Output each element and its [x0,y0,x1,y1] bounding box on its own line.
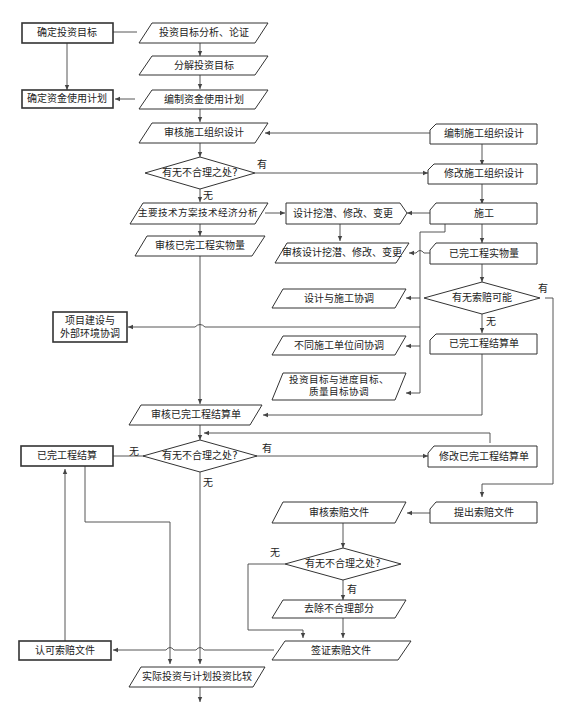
node-investment-target-analysis: 投资目标分析、论证 [139,23,268,43]
node-decompose-investment-target: 分解投资目标 [139,56,268,75]
node-review-claim-documents: 审核索赔文件 [272,502,406,523]
svg-text:审核设计挖潜、修改、变更: 审核设计挖潜、修改、变更 [282,246,402,258]
node-modify-construction-org-design: 修改施工组织设计 [428,164,537,184]
node-modify-completed-settlement-sheet: 修改已完工程结算单 [428,446,537,467]
svg-text:编制资金使用计划: 编制资金使用计划 [164,93,244,105]
svg-text:主要技术方案技术经济分析: 主要技术方案技术经济分析 [138,207,258,218]
svg-text:外部环境协调: 外部环境协调 [60,327,120,339]
node-tech-economic-analysis: 主要技术方案技术经济分析 [130,203,268,224]
svg-text:去除不合理部分: 去除不合理部分 [304,602,374,614]
edge-label-d3-no-down: 无 [203,477,213,488]
svg-text:设计挖潜、修改、变更: 设计挖潜、修改、变更 [293,207,393,219]
svg-text:审核索赔文件: 审核索赔文件 [309,506,369,518]
node-compile-construction-org-design: 编制施工组织设计 [430,124,537,144]
decision-unreasonable-3: 有无不合理之处? [285,548,401,580]
svg-text:审核施工组织设计: 审核施工组织设计 [164,126,244,138]
svg-text:投资目标与进度目标、: 投资目标与进度目标、 [289,374,389,385]
node-design-potential-changes: 设计挖潜、修改、变更 [286,203,407,224]
svg-text:施工: 施工 [474,207,494,219]
decision-claim-possibility: 有无索赔可能 [424,282,540,314]
svg-text:设计与施工协调: 设计与施工协调 [304,292,374,304]
svg-text:有无索赔可能: 有无索赔可能 [452,291,512,303]
node-review-construction-org-design: 审核施工组织设计 [139,123,268,143]
node-certify-claim-documents: 签证索赔文件 [272,641,411,660]
node-completed-settlement-sheet: 已完工程结算单 [430,334,537,354]
edge-label-d1-no: 无 [203,190,213,201]
svg-text:修改已完工程结算单: 修改已完工程结算单 [439,450,529,462]
node-review-completed-settlement-sheet: 审核已完工程结算单 [129,405,262,425]
edge-label-d4-no: 无 [270,547,280,558]
svg-text:审核已完工程结算单: 审核已完工程结算单 [151,408,241,420]
edge-label-d3-no-left: 无 [129,446,139,457]
node-target-coordination: 投资目标与进度目标、 质量目标协调 [272,373,406,400]
node-completed-quantity: 已完工程实物量 [430,243,537,264]
node-approve-claim-documents: 认可索赔文件 [19,641,111,660]
node-determine-fund-plan: 确定资金使用计划 [22,90,113,108]
node-remove-unreasonable-parts: 去除不合理部分 [272,600,406,618]
node-external-environment-coordination: 项目建设与 外部环境协调 [53,312,127,342]
svg-text:投资目标分析、论证: 投资目标分析、论证 [159,26,249,38]
edge-label-d1-yes: 有 [257,158,267,170]
node-completed-settlement: 已完工程结算 [21,446,113,466]
svg-text:已完工程结算: 已完工程结算 [37,449,97,461]
svg-text:提出索赔文件: 提出索赔文件 [454,506,514,518]
edge-label-d2-no: 无 [486,316,496,327]
investment-control-flowchart: 确定投资目标 投资目标分析、论证 分解投资目标 确定资金使用计划 编制资金使用计… [0,0,568,720]
svg-text:已完工程实物量: 已完工程实物量 [449,247,519,259]
node-inter-contractor-coordination: 不同施工单位间协调 [272,336,406,355]
node-compile-fund-plan: 编制资金使用计划 [139,90,268,109]
svg-text:修改施工组织设计: 修改施工组织设计 [444,167,524,179]
svg-text:实际投资与计划投资比较: 实际投资与计划投资比较 [142,670,252,682]
svg-text:认可索赔文件: 认可索赔文件 [35,644,95,656]
svg-text:不同施工单位间协调: 不同施工单位间协调 [294,339,384,351]
node-submit-claim-documents: 提出索赔文件 [430,502,537,523]
node-design-construction-coordination: 设计与施工协调 [272,289,406,308]
svg-text:签证索赔文件: 签证索赔文件 [311,644,371,656]
edge-label-d2-yes: 有 [538,282,548,294]
svg-text:分解投资目标: 分解投资目标 [174,59,234,71]
svg-text:已完工程结算单: 已完工程结算单 [449,337,519,349]
svg-text:确定投资目标: 确定投资目标 [37,26,97,38]
svg-text:确定资金使用计划: 确定资金使用计划 [27,92,107,104]
svg-text:有无不合理之处?: 有无不合理之处? [305,557,380,569]
decision-unreasonable-1: 有无不合理之处? [145,157,255,189]
decision-unreasonable-2: 有无不合理之处? [143,440,257,472]
node-determine-investment-target: 确定投资目标 [22,23,113,43]
svg-text:项目建设与: 项目建设与 [65,314,115,326]
svg-text:编制施工组织设计: 编制施工组织设计 [444,127,524,139]
edge-label-d3-yes: 有 [262,442,272,454]
svg-text:有无不合理之处?: 有无不合理之处? [162,449,237,461]
svg-text:审核已完工程实物量: 审核已完工程实物量 [155,239,245,251]
node-review-design-changes: 审核设计挖潜、修改、变更 [275,243,409,263]
node-actual-vs-planned-comparison: 实际投资与计划投资比较 [129,667,265,687]
node-construction: 施工 [430,203,537,224]
node-review-completed-quantity: 审核已完工程实物量 [135,236,265,256]
edge-label-d4-yes: 有 [347,583,357,595]
svg-text:有无不合理之处?: 有无不合理之处? [162,166,237,178]
svg-text:质量目标协调: 质量目标协调 [309,386,369,397]
